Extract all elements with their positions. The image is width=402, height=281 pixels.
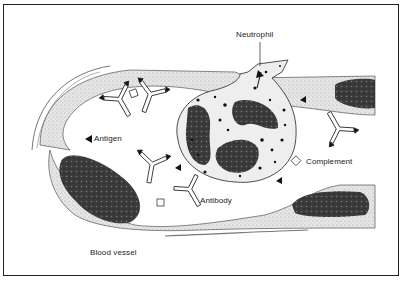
antigen-icon: [175, 164, 181, 171]
label-neutrophil: Neutrophil: [236, 30, 273, 39]
endothelial-nucleus-lower-right: [292, 191, 369, 217]
complement-icon: [129, 89, 138, 98]
label-antibody: Antibody: [200, 196, 232, 205]
antibody-icon: [132, 149, 171, 185]
complement-icon: [157, 199, 164, 206]
label-antigen: Antigen: [94, 134, 122, 143]
label-blood-vessel: Blood vessel: [90, 248, 137, 257]
label-complement: Complement: [306, 157, 352, 166]
antibody-icon: [172, 173, 211, 212]
blood-vessel-diagram: [0, 0, 402, 281]
antigen-icon: [85, 135, 92, 143]
endothelial-nucleus-left: [60, 156, 140, 223]
complement-icon: [291, 156, 301, 166]
antigen-icon: [276, 177, 282, 184]
